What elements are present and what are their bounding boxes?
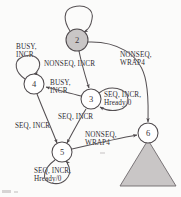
edge-2-to-3	[79, 51, 89, 88]
node-2[interactable]: 2	[66, 29, 88, 51]
edge-2-self	[65, 6, 92, 32]
scan-speck	[14, 191, 18, 193]
edge-label-5-self: SEQ, INCR, Hready/0	[34, 167, 71, 183]
node-3[interactable]: 3	[81, 89, 101, 109]
terminal-triangle	[120, 140, 176, 186]
edge-label-4-self: BUSY, INCR	[16, 43, 37, 59]
state-diagram: 2 4 3 5 6 BUSY, INCR NONSEQ, INCR NONSEQ…	[0, 0, 181, 197]
node-5[interactable]: 5	[52, 142, 72, 162]
node-6-label: 6	[146, 128, 150, 138]
edge-label-3-to-5: SEQ, INCR	[58, 113, 93, 121]
edge-label-2-to-3: NONSEQ, INCR	[44, 60, 95, 68]
edge-label-2-to-6: NONSEQ, WRAP4	[120, 51, 152, 67]
node-2-label: 2	[75, 35, 79, 45]
node-6[interactable]: 6	[138, 123, 158, 143]
edge-label-3-self: SEQ, INCR, Hready/0	[104, 91, 141, 107]
scan-speck	[100, 152, 105, 154]
edge-label-4-to-5: SEQ, INCR	[15, 122, 50, 130]
edge-label-3-to-4: BUSY, INCR	[50, 79, 71, 95]
node-4[interactable]: 4	[24, 74, 44, 94]
edge-4-to-5	[37, 94, 57, 143]
edge-label-5-to-6: NONSEQ, WRAP4	[85, 131, 117, 147]
node-5-label: 5	[60, 147, 64, 157]
diagram-canvas: 2 4 3 5 6	[0, 0, 181, 197]
node-3-label: 3	[89, 94, 93, 104]
scan-speck	[2, 190, 11, 193]
